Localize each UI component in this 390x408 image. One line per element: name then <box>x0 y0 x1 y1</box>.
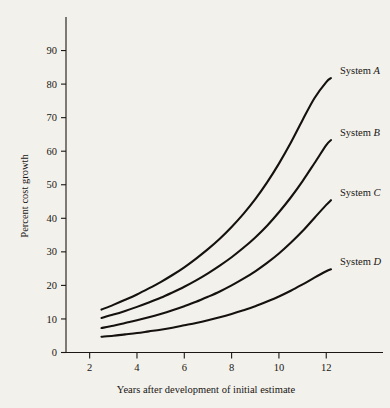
chart-container: 0102030405060708090 24681012 System ASys… <box>0 0 390 408</box>
series-label-c: System C <box>340 187 382 198</box>
series-label-b: System B <box>340 127 381 138</box>
series-curve <box>101 269 330 336</box>
x-tick-label: 10 <box>274 362 285 373</box>
x-axis-ticks: 24681012 <box>87 353 331 373</box>
y-tick-label: 0 <box>52 347 57 358</box>
x-tick-label: 8 <box>229 362 234 373</box>
series-labels: System ASystem BSystem CSystem D <box>340 65 382 267</box>
y-tick-label: 90 <box>47 45 58 56</box>
series-curve <box>101 200 330 328</box>
line-chart: 0102030405060708090 24681012 System ASys… <box>0 0 390 408</box>
y-tick-label: 70 <box>47 112 58 123</box>
y-tick-label: 10 <box>47 314 58 325</box>
y-axis-ticks: 0102030405060708090 <box>47 45 67 358</box>
y-tick-label: 80 <box>47 79 58 90</box>
y-tick-label: 30 <box>47 246 58 257</box>
x-tick-label: 6 <box>182 362 187 373</box>
x-tick-label: 12 <box>321 362 332 373</box>
series-label-a: System A <box>340 65 381 76</box>
y-tick-label: 50 <box>47 179 58 190</box>
y-tick-label: 60 <box>47 146 58 157</box>
y-tick-label: 20 <box>47 280 58 291</box>
series-label-d: System D <box>340 256 382 267</box>
series-curve <box>101 140 330 318</box>
x-tick-label: 4 <box>134 362 140 373</box>
data-curves <box>101 78 330 337</box>
series-curve <box>101 78 330 310</box>
y-axis-title: Percent cost growth <box>19 154 30 238</box>
x-tick-label: 2 <box>87 362 92 373</box>
y-tick-label: 40 <box>47 213 58 224</box>
x-axis-title: Years after development of initial estim… <box>117 384 296 395</box>
